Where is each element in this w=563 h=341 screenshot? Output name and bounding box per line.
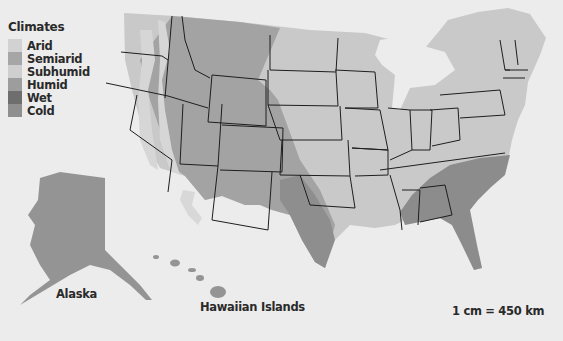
legend-item-arid: Arid [8,39,90,52]
legend-label: Subhumid [27,65,90,79]
legend-label: Humid [27,78,67,92]
hawaii-label: Hawaiian Islands [200,300,305,314]
arizona-arid [180,190,202,225]
alaska [20,172,152,305]
legend-item-cold: Cold [8,104,90,117]
hawaiian-islands [153,255,226,298]
legend-label: Cold [27,104,54,118]
swatch-subhumid [8,65,22,78]
swatch-semiarid [8,52,22,65]
legend-label: Semiarid [27,52,82,66]
swatch-cold [8,104,22,117]
swatch-humid [8,78,22,91]
legend-label: Arid [27,39,53,53]
legend-title: Climates [8,20,90,34]
legend-item-subhumid: Subhumid [8,65,90,78]
scale-label: 1 cm = 450 km [452,304,544,318]
swatch-wet [8,91,22,104]
swatch-arid [8,39,22,52]
legend-label: Wet [27,91,52,105]
legend: Climates Arid Semiarid Subhumid Humid We… [8,20,90,117]
alaska-label: Alaska [56,287,97,301]
legend-item-humid: Humid [8,78,90,91]
legend-item-wet: Wet [8,91,90,104]
legend-item-semiarid: Semiarid [8,52,90,65]
